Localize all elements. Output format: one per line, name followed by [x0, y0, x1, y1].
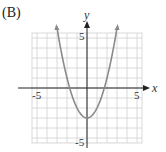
curve-end-arrow-icon: [55, 24, 60, 30]
x-tick-label-neg5: -5: [32, 89, 42, 101]
x-axis-arrow-icon: [143, 85, 150, 91]
y-axis-label: y: [83, 8, 90, 22]
curve-end-arrow-icon: [115, 24, 120, 30]
y-tick-label-neg5: -5: [75, 136, 85, 148]
x-tick-label-5: 5: [134, 89, 140, 101]
parabola-chart: -555-5xy: [0, 0, 166, 152]
y-axis-arrow-icon: [84, 21, 90, 28]
x-axis-label: x: [151, 81, 158, 95]
y-tick-label-5: 5: [79, 30, 85, 42]
